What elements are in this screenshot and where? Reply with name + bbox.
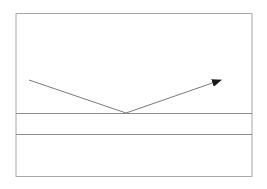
reflected-ray-arrow	[126, 80, 221, 113]
reflection-diagram	[0, 0, 267, 189]
diagram-frame	[16, 14, 252, 177]
incident-ray	[29, 80, 126, 113]
